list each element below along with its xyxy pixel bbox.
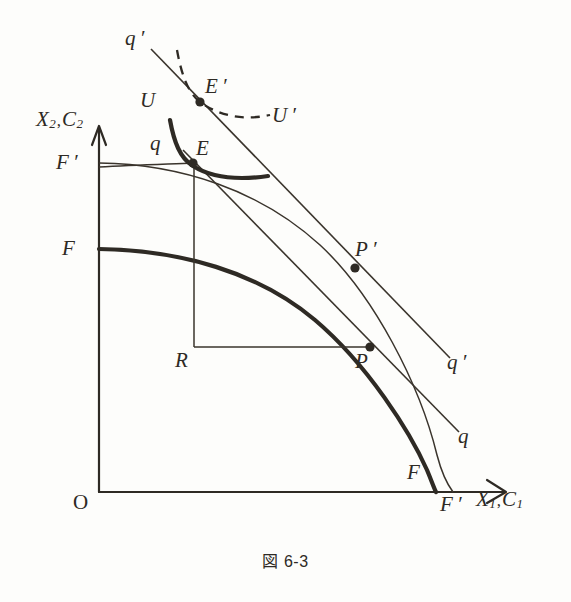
x-axis-label-x: X bbox=[476, 487, 489, 511]
label-u-curve: U bbox=[140, 90, 155, 111]
ppf-curve-f bbox=[99, 249, 436, 492]
label-point-e-prime: E ′ bbox=[205, 76, 227, 97]
y-axis-label: X2,C2 bbox=[36, 109, 83, 130]
marker-points-group bbox=[188, 97, 374, 351]
label-point-e: E bbox=[196, 138, 209, 159]
label-point-r: R bbox=[175, 350, 188, 371]
label-f-y-intercept: F bbox=[62, 238, 75, 259]
x-axis-label-c-sub: 1 bbox=[516, 496, 523, 511]
label-point-p-prime: P ′ bbox=[355, 239, 377, 260]
label-q-top: q bbox=[150, 133, 161, 154]
point-marker-e-prime bbox=[195, 97, 204, 106]
label-f-x-intercept: F bbox=[407, 462, 420, 483]
price-line-q bbox=[183, 150, 459, 432]
y-axis-label-c-sub: 2 bbox=[76, 116, 83, 131]
ppf-curve-f-prime bbox=[99, 163, 453, 492]
label-f-prime-x-intercept: F ′ bbox=[440, 494, 462, 515]
x-axis-label-x-sub: 1 bbox=[489, 496, 496, 511]
y-axis-label-x-sub: 2 bbox=[49, 116, 56, 131]
y-axis-label-c: C bbox=[62, 107, 76, 131]
label-q-prime-top: q ′ bbox=[125, 28, 144, 49]
origin-label: O bbox=[73, 492, 88, 513]
label-u-prime-curve: U ′ bbox=[272, 105, 296, 126]
label-q-prime-right: q ′ bbox=[447, 352, 466, 373]
x-axis-label-c: C bbox=[502, 487, 516, 511]
y-axis-label-x: X bbox=[36, 107, 49, 131]
price-line-q-prime bbox=[151, 49, 450, 358]
label-f-prime-y-intercept: F ′ bbox=[56, 152, 78, 173]
label-point-p: P bbox=[355, 351, 368, 372]
x-axis-label: X1,C1 bbox=[476, 489, 523, 510]
point-marker-p-prime bbox=[350, 263, 359, 272]
label-q-right: q bbox=[458, 426, 469, 447]
figure-caption: 図 6-3 bbox=[0, 548, 571, 572]
figure-root: X2,C2 X1,C1 O F ′ F F F ′ U U ′ q q ′ q … bbox=[0, 0, 571, 602]
indifference-curve-u bbox=[170, 120, 268, 178]
axis-arrowheads bbox=[92, 126, 506, 503]
